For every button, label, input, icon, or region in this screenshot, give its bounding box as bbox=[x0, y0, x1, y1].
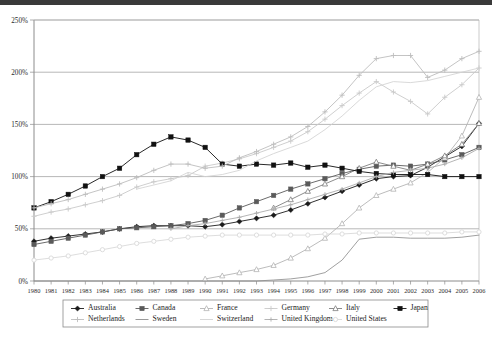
legend-label: Sweden bbox=[153, 314, 177, 323]
data-point-marker bbox=[203, 234, 207, 238]
data-point-marker bbox=[117, 166, 121, 170]
data-point-marker bbox=[32, 242, 36, 246]
data-point-marker bbox=[323, 163, 327, 167]
data-point-marker bbox=[237, 164, 241, 168]
legend-item-germany[interactable]: Germany bbox=[265, 303, 310, 312]
legend-item-united-kingdom[interactable]: United Kingdom bbox=[265, 314, 333, 323]
data-point-marker bbox=[151, 179, 156, 184]
data-point-marker bbox=[66, 192, 70, 196]
data-point-marker bbox=[100, 198, 105, 203]
series-australia bbox=[31, 121, 481, 244]
series-group bbox=[31, 49, 481, 281]
data-point-marker bbox=[289, 161, 293, 165]
y-axis-tick-label: 0% bbox=[18, 278, 28, 286]
series-line bbox=[34, 235, 479, 281]
data-point-marker bbox=[220, 218, 224, 222]
data-point-marker bbox=[443, 162, 447, 166]
legend-item-united-states[interactable]: United States bbox=[329, 314, 387, 323]
legend-item-australia[interactable]: Australia bbox=[71, 303, 116, 312]
legend-item-france[interactable]: France bbox=[200, 303, 238, 312]
legend-label: Italy bbox=[346, 303, 360, 312]
x-axis-tick-label: 1983 bbox=[79, 287, 92, 294]
data-point-marker bbox=[49, 239, 53, 243]
data-point-marker bbox=[306, 165, 310, 169]
data-point-marker bbox=[374, 159, 379, 164]
data-point-marker bbox=[169, 237, 173, 241]
x-axis-tick-label: 2005 bbox=[455, 287, 468, 294]
x-axis-tick-label: 1985 bbox=[113, 287, 126, 294]
legend-label: Australia bbox=[88, 303, 116, 312]
data-point-marker bbox=[100, 174, 104, 178]
data-point-marker bbox=[83, 233, 87, 237]
x-axis-tick-label: 1987 bbox=[147, 287, 161, 294]
data-point-marker bbox=[168, 161, 173, 166]
data-point-marker bbox=[100, 248, 104, 252]
data-point-marker bbox=[135, 241, 139, 245]
legend-item-netherlands[interactable]: Netherlands bbox=[71, 314, 125, 323]
legend-item-canada[interactable]: Canada bbox=[136, 303, 176, 312]
x-axis-tick-label: 1986 bbox=[130, 287, 143, 294]
data-point-marker bbox=[152, 239, 156, 243]
data-point-marker bbox=[237, 233, 241, 237]
legend-item-italy[interactable]: Italy bbox=[329, 303, 360, 312]
data-point-marker bbox=[66, 206, 71, 211]
data-point-marker bbox=[426, 231, 430, 235]
legend-label: Germany bbox=[282, 303, 310, 312]
data-point-marker bbox=[49, 256, 53, 260]
data-point-marker bbox=[288, 255, 293, 260]
data-point-marker bbox=[289, 233, 293, 237]
data-point-marker bbox=[254, 233, 258, 237]
data-point-marker bbox=[391, 231, 395, 235]
chart-legend: AustraliaCanadaFranceGermanyItalyJapanNe… bbox=[63, 300, 428, 327]
data-point-marker bbox=[169, 135, 173, 139]
data-point-marker bbox=[186, 138, 190, 142]
data-point-marker bbox=[66, 197, 71, 202]
data-point-marker bbox=[100, 230, 104, 234]
series-germany bbox=[31, 65, 481, 218]
gridlines-group bbox=[34, 20, 479, 229]
series-united-kingdom bbox=[169, 146, 481, 231]
data-point-marker bbox=[134, 152, 138, 156]
data-point-marker bbox=[32, 258, 36, 262]
data-point-marker bbox=[460, 174, 464, 178]
data-point-marker bbox=[134, 226, 138, 230]
data-point-marker bbox=[272, 233, 276, 237]
x-axis-tick-label: 1998 bbox=[336, 287, 349, 294]
x-axis-tick-label: 1994 bbox=[267, 287, 281, 294]
data-point-marker bbox=[220, 233, 224, 237]
data-point-marker bbox=[31, 214, 36, 219]
x-axis-tick-label: 1993 bbox=[250, 287, 263, 294]
data-point-marker bbox=[268, 306, 273, 311]
legend-label: Canada bbox=[153, 303, 176, 312]
data-point-marker bbox=[66, 254, 70, 258]
y-axis-tick-label: 150% bbox=[11, 121, 28, 129]
data-point-marker bbox=[288, 197, 293, 202]
x-axis-tick-label: 1996 bbox=[301, 287, 314, 294]
y-axis-tick-label: 200% bbox=[11, 69, 28, 77]
legend-item-sweden[interactable]: Sweden bbox=[136, 314, 177, 323]
data-point-marker bbox=[323, 192, 327, 196]
series-netherlands bbox=[31, 49, 481, 211]
data-point-marker bbox=[459, 133, 464, 138]
x-axis-tick-label: 1999 bbox=[353, 287, 366, 294]
data-point-marker bbox=[477, 174, 481, 178]
data-point-marker bbox=[75, 306, 80, 311]
data-point-marker bbox=[117, 227, 121, 231]
x-axis-tick-label: 2000 bbox=[370, 287, 383, 294]
data-point-marker bbox=[408, 231, 412, 235]
legend-label: France bbox=[217, 303, 238, 312]
data-point-marker bbox=[83, 192, 88, 197]
data-point-marker bbox=[134, 175, 139, 180]
legend-item-japan[interactable]: Japan bbox=[394, 303, 428, 312]
x-axis-tick-label: 1997 bbox=[319, 287, 333, 294]
data-point-marker bbox=[152, 142, 156, 146]
data-point-marker bbox=[443, 174, 447, 178]
data-point-marker bbox=[305, 201, 310, 206]
data-point-marker bbox=[117, 181, 122, 186]
y-axis-tick-label: 250% bbox=[11, 17, 28, 25]
data-point-marker bbox=[151, 168, 156, 173]
data-point-marker bbox=[271, 142, 276, 147]
legend-item-switzerland[interactable]: Switzerland bbox=[200, 314, 253, 323]
data-point-marker bbox=[271, 163, 275, 167]
data-point-marker bbox=[323, 232, 327, 236]
